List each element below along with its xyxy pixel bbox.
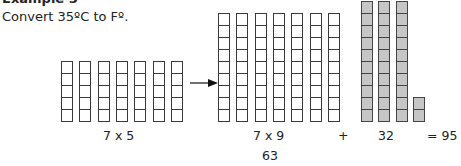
unit-square xyxy=(396,25,408,38)
celsius-grid-7x5 xyxy=(61,62,183,122)
unit-square xyxy=(171,97,183,110)
unit-square xyxy=(116,73,128,86)
unit-square xyxy=(236,61,248,74)
unit-square xyxy=(310,73,322,86)
unit-square xyxy=(378,1,390,14)
unit-square xyxy=(98,73,110,86)
unit-square xyxy=(378,97,390,110)
unit-square xyxy=(310,109,322,122)
grid-column xyxy=(291,14,303,122)
unit-square xyxy=(134,73,146,86)
unit-square xyxy=(153,97,165,110)
grid-column xyxy=(378,2,390,122)
unit-square xyxy=(236,25,248,38)
unit-square xyxy=(61,97,73,110)
label-63: 63 xyxy=(262,148,278,163)
unit-square xyxy=(116,85,128,98)
unit-square xyxy=(134,85,146,98)
unit-square xyxy=(218,49,230,62)
unit-square xyxy=(361,25,373,38)
unit-square xyxy=(273,109,285,122)
unit-square xyxy=(328,109,340,122)
unit-square xyxy=(378,85,390,98)
example-title: Example 5 xyxy=(2,0,78,6)
unit-square xyxy=(171,73,183,86)
unit-square xyxy=(255,85,267,98)
unit-square xyxy=(79,61,91,74)
result-95: = 95 xyxy=(427,128,457,143)
unit-square xyxy=(218,25,230,38)
unit-square xyxy=(413,109,425,122)
problem-prompt: Convert 35ºC to Fº. xyxy=(2,9,128,24)
grid-column xyxy=(134,62,146,122)
unit-square xyxy=(396,73,408,86)
unit-square xyxy=(61,73,73,86)
scaled-grid-7x9 xyxy=(218,14,340,122)
unit-square xyxy=(79,85,91,98)
unit-square xyxy=(61,61,73,74)
unit-square xyxy=(361,1,373,14)
unit-square xyxy=(273,13,285,26)
unit-square xyxy=(255,73,267,86)
unit-square xyxy=(255,97,267,110)
unit-square xyxy=(310,85,322,98)
unit-square xyxy=(361,49,373,62)
unit-square xyxy=(378,73,390,86)
unit-square xyxy=(218,109,230,122)
offset-grid-32 xyxy=(361,2,426,122)
unit-square xyxy=(291,85,303,98)
unit-square xyxy=(361,37,373,50)
unit-square xyxy=(273,97,285,110)
unit-square xyxy=(236,73,248,86)
unit-square xyxy=(134,109,146,122)
unit-square xyxy=(153,61,165,74)
grid-column xyxy=(116,62,128,122)
unit-square xyxy=(134,61,146,74)
unit-square xyxy=(218,97,230,110)
unit-square xyxy=(236,37,248,50)
unit-square xyxy=(291,73,303,86)
unit-square xyxy=(328,25,340,38)
unit-square xyxy=(378,49,390,62)
unit-square xyxy=(98,85,110,98)
grid-column xyxy=(79,62,91,122)
grid-column xyxy=(273,14,285,122)
unit-square xyxy=(98,97,110,110)
unit-square xyxy=(255,49,267,62)
unit-square xyxy=(236,49,248,62)
unit-square xyxy=(378,37,390,50)
unit-square xyxy=(218,85,230,98)
unit-square xyxy=(396,85,408,98)
unit-square xyxy=(61,85,73,98)
grid-column xyxy=(218,14,230,122)
grid-column xyxy=(153,62,165,122)
unit-square xyxy=(218,37,230,50)
unit-square xyxy=(378,109,390,122)
unit-square xyxy=(218,61,230,74)
right-arrow-icon xyxy=(190,79,218,87)
unit-square xyxy=(153,109,165,122)
unit-square xyxy=(291,109,303,122)
unit-square xyxy=(291,49,303,62)
unit-square xyxy=(396,61,408,74)
unit-square xyxy=(273,73,285,86)
unit-square xyxy=(310,49,322,62)
unit-square xyxy=(134,97,146,110)
unit-square xyxy=(218,73,230,86)
unit-square xyxy=(255,25,267,38)
label-7x9: 7 x 9 xyxy=(253,128,284,143)
unit-square xyxy=(255,61,267,74)
unit-square xyxy=(396,37,408,50)
unit-square xyxy=(236,13,248,26)
unit-square xyxy=(273,85,285,98)
unit-square xyxy=(116,97,128,110)
unit-square xyxy=(153,85,165,98)
unit-square xyxy=(378,25,390,38)
unit-square xyxy=(236,85,248,98)
unit-square xyxy=(361,97,373,110)
unit-square xyxy=(79,97,91,110)
unit-square xyxy=(255,13,267,26)
unit-square xyxy=(255,109,267,122)
unit-square xyxy=(236,109,248,122)
unit-square xyxy=(361,85,373,98)
